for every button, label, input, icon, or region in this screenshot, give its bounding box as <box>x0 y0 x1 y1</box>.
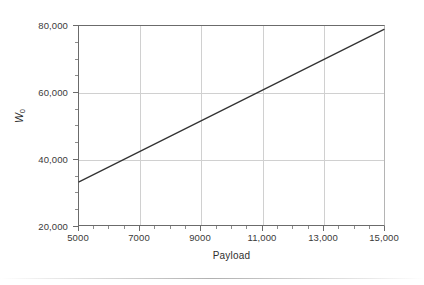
ytick-minor <box>75 75 78 76</box>
bottom-divider <box>0 278 424 279</box>
ytick-minor <box>75 176 78 177</box>
xtick-minor <box>108 226 109 229</box>
xtick-minor <box>308 226 309 229</box>
xticklabel-5000: 5000 <box>67 232 89 243</box>
xtick-15000 <box>384 226 385 231</box>
yticklabel-40000: 40,000 <box>38 154 68 165</box>
ytick-minor <box>75 142 78 143</box>
xticklabel-7000: 7000 <box>128 232 150 243</box>
xtick-13000 <box>323 226 324 231</box>
xtick-11000 <box>262 226 263 231</box>
yticklabel-80000: 80,000 <box>38 20 68 31</box>
ytick-80000 <box>73 25 78 26</box>
yticklabel-20000: 20,000 <box>38 221 68 232</box>
xtick-minor <box>154 226 155 229</box>
xtick-minor <box>170 226 171 229</box>
xtick-minor <box>124 226 125 229</box>
xtick-minor <box>369 226 370 229</box>
xtick-minor <box>354 226 355 229</box>
x-axis-label: Payload <box>78 250 385 261</box>
xtick-5000 <box>78 226 79 231</box>
xticklabel-11000: 11,000 <box>248 232 277 243</box>
xtick-minor <box>277 226 278 229</box>
y-axis-label-subscript: 0 <box>18 109 27 113</box>
y-axis-label-base: W <box>13 113 25 123</box>
xtick-minor <box>93 226 94 229</box>
ytick-minor <box>75 209 78 210</box>
xtick-7000 <box>139 226 140 231</box>
xticklabel-9000: 9000 <box>189 232 211 243</box>
ytick-minor <box>75 59 78 60</box>
xtick-9000 <box>200 226 201 231</box>
y-axis-label: W0 <box>13 109 25 123</box>
xticklabel-15000: 15,000 <box>369 232 399 243</box>
xticklabel-13000: 13,000 <box>308 232 338 243</box>
chart-figure: 5000 7000 9000 11,000 13,000 15,000 80,0… <box>0 0 424 285</box>
data-series-w0 <box>79 26 384 225</box>
plot-area <box>78 25 385 226</box>
ytick-minor <box>75 192 78 193</box>
ytick-minor <box>75 109 78 110</box>
ytick-40000 <box>73 159 78 160</box>
ytick-minor <box>75 125 78 126</box>
ytick-minor <box>75 42 78 43</box>
xtick-minor <box>246 226 247 229</box>
yticklabel-60000: 60,000 <box>38 87 68 98</box>
ytick-60000 <box>73 92 78 93</box>
xtick-minor <box>185 226 186 229</box>
xtick-minor <box>338 226 339 229</box>
xtick-minor <box>292 226 293 229</box>
ytick-20000 <box>73 226 78 227</box>
xtick-minor <box>216 226 217 229</box>
xtick-minor <box>231 226 232 229</box>
